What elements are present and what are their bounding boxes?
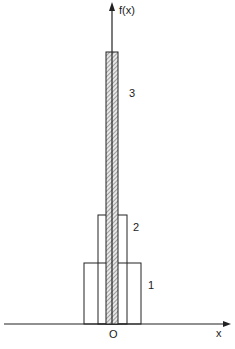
x-axis-label: x — [216, 327, 222, 339]
x-axis-arrow-icon — [223, 321, 231, 327]
y-axis-arrow-icon — [109, 2, 115, 11]
origin-label: O — [109, 328, 118, 340]
y-axis-label: f(x) — [119, 4, 135, 16]
pulse-3-label: 3 — [129, 87, 135, 99]
delta-sequence-diagram: f(x) x O 3 2 1 — [0, 0, 235, 349]
pulse-2-label: 2 — [133, 221, 139, 233]
pulse-1-label: 1 — [148, 279, 154, 291]
